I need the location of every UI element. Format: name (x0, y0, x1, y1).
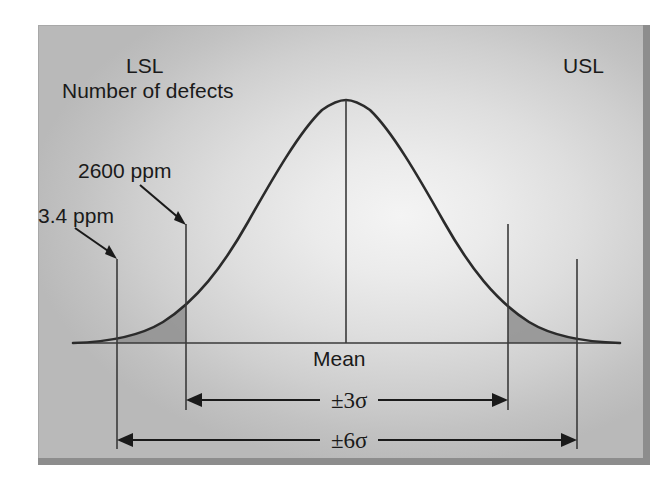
ppm-3p4-label: 3.4 ppm (38, 205, 114, 226)
three-sigma-label: ±3σ (325, 389, 374, 412)
right-tail-shaded-region (346, 100, 620, 343)
six-sigma-label: ±6σ (325, 429, 374, 452)
ppm-2600-label: 2600 ppm (78, 160, 171, 181)
callout-arrow-3p4ppm (75, 228, 117, 259)
callout-arrow-2600ppm (140, 185, 186, 225)
number-of-defects-label: Number of defects (62, 80, 234, 101)
mean-label: Mean (313, 348, 366, 369)
left-tail-shaded-region (73, 100, 346, 343)
usl-label: USL (563, 55, 604, 76)
figure-screenshot: LSL Number of defects USL 2600 ppm 3.4 p… (0, 0, 672, 492)
lsl-label: LSL (126, 55, 163, 76)
